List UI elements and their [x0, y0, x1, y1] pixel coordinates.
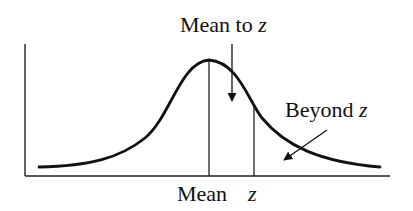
axis-label-mean: Mean	[177, 183, 227, 205]
axis-label-z: z	[248, 183, 257, 205]
label-mean-to-z-var: z	[258, 12, 267, 37]
label-beyond-z-text: Beyond	[285, 97, 359, 122]
label-beyond-z: Beyond z	[285, 99, 368, 121]
label-mean-to-z-text: Mean to	[180, 12, 258, 37]
label-beyond-z-var: z	[359, 97, 368, 122]
label-mean-to-z: Mean to z	[180, 14, 267, 36]
